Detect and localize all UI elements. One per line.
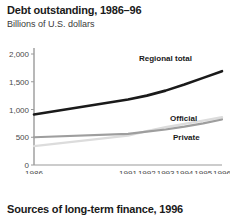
x-tick-label: 1986 <box>25 169 43 174</box>
chart-title: Debt outstanding, 1986–96 <box>7 4 141 16</box>
y-tick-label: 1,000 <box>9 106 30 115</box>
y-tick-label: 1,500 <box>9 78 30 87</box>
y-tick-label: 500 <box>16 133 30 142</box>
y-tick-label: 2,000 <box>9 50 30 59</box>
x-tick-label: 1995 <box>194 169 212 174</box>
x-tick-label: 1993 <box>157 169 175 174</box>
chart-subtitle: Billions of U.S. dollars <box>7 19 95 29</box>
series-label-regional-total: Regional total <box>139 54 192 63</box>
series-label-official: Official <box>170 114 197 123</box>
series-line-regional-total <box>34 71 222 114</box>
section-divider <box>0 190 230 191</box>
chart-plot-area: 05001,0001,5002,000 19861991199219931994… <box>0 34 230 174</box>
x-tick-label: 1994 <box>176 169 194 174</box>
debt-outstanding-figure: Debt outstanding, 1986–96 Billions of U.… <box>0 0 230 224</box>
x-tick-label: 1991 <box>119 169 137 174</box>
next-section-title: Sources of long-term finance, 1996 <box>7 203 183 215</box>
line-chart-svg: 05001,0001,5002,000 19861991199219931994… <box>0 34 230 174</box>
x-tick-label: 1996 <box>213 169 230 174</box>
series-label-private: Private <box>173 133 200 142</box>
x-tick-label: 1992 <box>138 169 156 174</box>
y-axis: 05001,0001,5002,000 <box>9 48 34 170</box>
x-axis: 1986199119921993199419951996 <box>25 165 230 174</box>
